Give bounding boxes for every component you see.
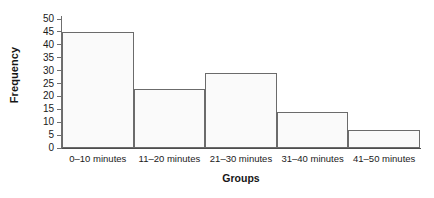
x-axis-tick-labels: 0–10 minutes11–20 minutes21–30 minutes31… (62, 152, 420, 168)
x-axis-tick-label: 41–50 minutes (348, 152, 420, 168)
y-axis-tick-label: 0 (48, 141, 54, 154)
x-axis-tick-label: 31–40 minutes (277, 152, 349, 168)
y-axis-tick-label: 10 (43, 115, 54, 128)
y-axis-tick-label: 20 (43, 89, 54, 102)
x-axis-tick-label: 0–10 minutes (62, 152, 134, 168)
x-axis-tick-label: 11–20 minutes (134, 152, 206, 168)
y-axis-tick-label: 5 (48, 128, 54, 141)
bar (205, 73, 277, 148)
y-axis-tick-label: 40 (43, 38, 54, 51)
bar (277, 112, 349, 148)
histogram-figure: Frequency 05101520253035404550 0–10 minu… (0, 0, 434, 198)
bar (348, 130, 420, 148)
y-axis-tick-label: 25 (43, 77, 54, 90)
x-axis-tick-label: 21–30 minutes (205, 152, 277, 168)
y-axis-title-text: Frequency (8, 47, 20, 104)
plot-area: 05101520253035404550 (62, 19, 420, 148)
x-axis-title: Groups (62, 172, 420, 184)
y-axis-tick-label: 50 (43, 12, 54, 25)
y-axis-tick-mark (57, 19, 62, 20)
y-axis-tick-label: 15 (43, 102, 54, 115)
y-axis-tick-label: 45 (43, 25, 54, 38)
bar (134, 89, 206, 148)
y-axis-tick-label: 35 (43, 51, 54, 64)
bar (62, 32, 134, 148)
y-axis-title: Frequency (2, 0, 26, 150)
y-axis-tick-label: 30 (43, 64, 54, 77)
x-axis-line (61, 148, 421, 149)
